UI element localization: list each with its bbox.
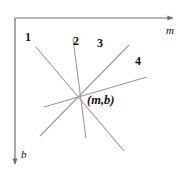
line-2-segment: [73, 39, 86, 138]
line-2-label: 2: [73, 35, 79, 47]
line-4-label: 4: [135, 55, 141, 67]
intersection-point-label: (m,b): [87, 94, 114, 107]
b-axis-label: b: [21, 149, 27, 160]
figure-canvas: m b 1 2 3 4 (m,b): [0, 0, 189, 172]
axes-group: [15, 18, 173, 164]
line-1-label: 1: [25, 31, 31, 43]
line-3-label: 3: [97, 37, 103, 49]
line-3-segment: [40, 45, 129, 136]
figure-svg: [0, 0, 189, 172]
m-axis-label: m: [166, 25, 174, 36]
